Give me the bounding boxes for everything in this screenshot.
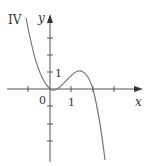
x-axis	[7, 86, 143, 92]
y-axis	[47, 14, 53, 162]
x-axis-label: x	[135, 95, 142, 109]
graph-figure: IV y x 0 1 1	[0, 0, 151, 166]
x-tick-label-1: 1	[68, 96, 75, 109]
origin-label: 0	[39, 94, 46, 107]
y-axis-label: y	[37, 11, 45, 25]
y-tick-label-1: 1	[55, 67, 62, 80]
x-axis-arrow-icon	[134, 86, 143, 92]
panel-label: IV	[8, 13, 22, 27]
y-axis-arrow-icon	[47, 14, 53, 23]
